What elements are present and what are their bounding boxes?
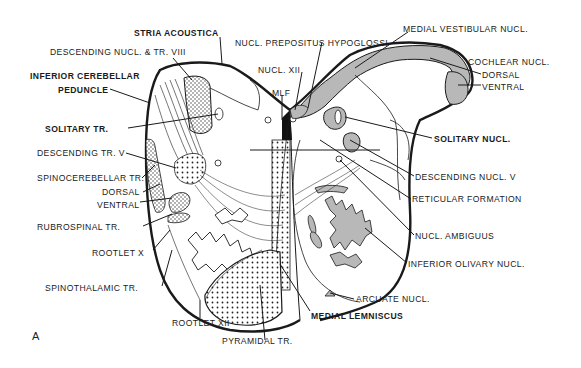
label-reticular-formation: RETICULAR FORMATION	[412, 194, 522, 204]
label-solitary-nucl: SOLITARY NUCL.	[434, 134, 511, 144]
label-nucl-prepositus-hypoglossi: NUCL. PREPOSITUS HYPOGLOSSI	[235, 38, 388, 48]
label-spinocerebellar-tr: SPINOCEREBELLAR TR.	[37, 173, 144, 183]
label-descending-tr-v: DESCENDING TR. V	[37, 148, 125, 158]
label-rootlet-x: ROOTLET X	[92, 248, 144, 258]
medulla-diagram: STRIA ACOUSTICA DESCENDING NUCL. & TR. V…	[0, 0, 581, 368]
label-solitary-tr: SOLITARY TR.	[45, 124, 108, 134]
label-spinothalamic-tr: SPINOTHALAMIC TR.	[45, 283, 138, 293]
label-peduncle: PEDUNCLE	[58, 85, 108, 95]
label-ventral-right: VENTRAL	[482, 82, 524, 92]
descending-nucl-viii-dotted	[184, 76, 212, 133]
label-nucl-xii: NUCL. XII	[258, 65, 300, 75]
label-nucl-ambiguus: NUCL. AMBIGUUS	[415, 231, 494, 241]
label-rubrospinal-tr: RUBROSPINAL TR.	[37, 222, 120, 232]
label-descending-nucl-v: DESCENDING NUCL. V	[415, 172, 516, 182]
right-inferior-olive	[325, 196, 372, 250]
label-mlf: MLF	[272, 88, 290, 98]
label-dorsal-left: DORSAL	[102, 187, 140, 197]
label-inferior-cerebellar: INFERIOR CEREBELLAR	[30, 71, 140, 81]
panel-letter: A	[32, 330, 39, 342]
label-descending-nucl-tr-viii: DESCENDING NUCL. & TR. VIII	[50, 47, 186, 57]
descending-nucl-v-gray	[343, 133, 360, 152]
label-dorsal-right: DORSAL	[482, 70, 520, 80]
label-pyramidal-tr: PYRAMIDAL TR.	[222, 336, 293, 346]
label-rootlet-xii: ROOTLET XII	[172, 318, 230, 328]
label-stria-acoustica: STRIA ACOUSTICA	[134, 28, 219, 38]
ventral-spinocerebellar-dotted	[169, 193, 190, 213]
label-medial-lemniscus: MEDIAL LEMNISCUS	[311, 311, 403, 321]
label-ventral-left: VENTRAL	[97, 200, 139, 210]
label-arcuate-nucl: ARCUATE NUCL.	[356, 294, 430, 304]
label-inferior-olivary-nucl: INFERIOR OLIVARY NUCL.	[408, 259, 525, 269]
label-medial-vestibular-nucl: MEDIAL VESTIBULAR NUCL.	[403, 24, 528, 34]
descending-tr-v-dotted	[174, 153, 205, 184]
label-cochlear-nucl: COCHLEAR NUCL.	[468, 57, 550, 67]
